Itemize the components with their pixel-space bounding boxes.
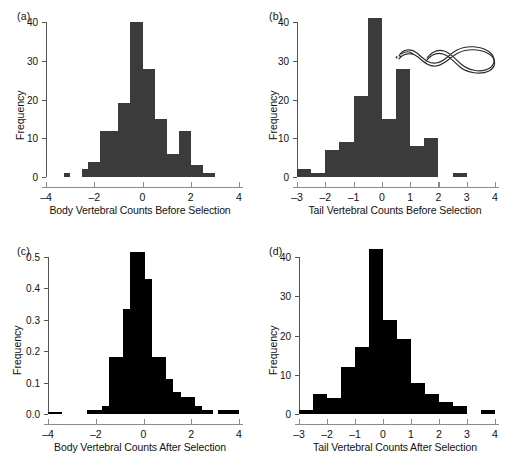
histogram-bar xyxy=(313,394,327,414)
histogram-bar xyxy=(109,357,116,414)
x-tick xyxy=(144,419,145,424)
histogram-bar xyxy=(188,397,195,414)
x-axis-line xyxy=(42,187,243,188)
histogram-bar xyxy=(123,309,130,414)
x-axis-line xyxy=(44,424,243,425)
x-tick xyxy=(239,419,240,424)
histogram-bar xyxy=(339,142,353,177)
x-tick xyxy=(410,182,411,187)
histogram-bar xyxy=(481,410,495,414)
panel-b: (b) Frequency 010203040–3–2–101234 Tail … xyxy=(255,0,509,235)
histogram-bar xyxy=(102,406,109,414)
x-tick-label: –3 xyxy=(293,428,305,440)
y-tick-label: 0 xyxy=(259,172,289,183)
y-tick-label: 30 xyxy=(8,55,38,66)
histogram-bar xyxy=(48,412,62,414)
y-tick xyxy=(44,288,48,289)
histogram-bar xyxy=(64,173,70,177)
histogram-bar xyxy=(145,279,152,414)
histogram-bar xyxy=(299,410,313,414)
y-tick-label: 0.1 xyxy=(10,377,40,388)
histogram-bar xyxy=(218,410,228,414)
panel-d-xlabel: Tail Vertebral Counts After Selection xyxy=(313,441,477,453)
panel-c: (c) Frequency 0.00.10.20.30.40.5–4–2024 … xyxy=(0,235,255,470)
histogram-bar xyxy=(354,96,368,177)
y-tick xyxy=(293,177,297,178)
y-tick-label: 40 xyxy=(261,252,291,263)
y-axis-line xyxy=(48,257,49,414)
y-tick-label: 40 xyxy=(259,17,289,28)
y-axis-line xyxy=(299,257,300,414)
panel-a: (a) Frequency 010203040–4–2024 Body Vert… xyxy=(0,0,255,235)
histogram-bar xyxy=(424,138,438,177)
histogram-bar xyxy=(425,394,439,414)
y-tick xyxy=(42,177,46,178)
x-tick xyxy=(467,182,468,187)
x-tick-label: 0 xyxy=(380,428,386,440)
x-tick-label: 2 xyxy=(188,428,194,440)
x-tick-label: 3 xyxy=(464,191,470,203)
y-tick xyxy=(293,100,297,101)
y-tick xyxy=(293,138,297,139)
x-tick xyxy=(46,182,47,187)
histogram-bar xyxy=(396,69,410,178)
x-tick-label: 3 xyxy=(464,428,470,440)
histogram-bar xyxy=(327,398,341,414)
histogram-bar xyxy=(410,146,424,177)
x-tick xyxy=(143,182,144,187)
y-tick-label: 10 xyxy=(8,133,38,144)
histogram-bar xyxy=(311,173,325,177)
x-tick-label: –1 xyxy=(348,191,360,203)
x-axis-line xyxy=(295,424,499,425)
y-tick-label: 0 xyxy=(8,172,38,183)
x-tick-label: 0 xyxy=(140,191,146,203)
histogram-bar xyxy=(116,357,123,414)
x-tick-label: 2 xyxy=(436,428,442,440)
y-axis-line xyxy=(297,22,298,177)
x-tick xyxy=(191,419,192,424)
x-tick xyxy=(439,419,440,424)
panel-a-plot: 010203040–4–2024 xyxy=(46,22,239,177)
y-tick-label: 30 xyxy=(259,55,289,66)
x-tick-label: –1 xyxy=(349,428,361,440)
x-tick xyxy=(467,419,468,424)
x-tick xyxy=(382,182,383,187)
y-tick-label: 0.3 xyxy=(10,314,40,325)
x-tick-label: 0 xyxy=(379,191,385,203)
y-tick-label: 30 xyxy=(261,291,291,302)
y-tick xyxy=(295,257,299,258)
histogram-bar xyxy=(453,173,467,177)
y-tick-label: 0.2 xyxy=(10,346,40,357)
x-tick-label: 1 xyxy=(407,191,413,203)
y-tick-label: 20 xyxy=(259,94,289,105)
x-tick xyxy=(383,419,384,424)
x-tick xyxy=(438,182,439,187)
x-tick xyxy=(411,419,412,424)
histogram-bar xyxy=(382,119,396,177)
panel-a-xlabel: Body Vertebral Counts Before Selection xyxy=(49,204,230,216)
histogram-bar xyxy=(439,402,453,414)
histogram-bar xyxy=(195,406,202,414)
panel-c-plot: 0.00.10.20.30.40.5–4–2024 xyxy=(48,257,239,414)
histogram-bar xyxy=(227,410,239,414)
x-tick xyxy=(297,182,298,187)
histogram-bar xyxy=(297,169,311,177)
x-tick-label: –2 xyxy=(88,191,100,203)
x-tick xyxy=(327,419,328,424)
x-tick xyxy=(325,182,326,187)
y-tick xyxy=(42,22,46,23)
y-tick-label: 10 xyxy=(261,369,291,380)
x-tick-label: –2 xyxy=(90,428,102,440)
histogram-bar xyxy=(325,150,339,177)
x-tick-label: –4 xyxy=(40,191,52,203)
histogram-bar xyxy=(152,357,159,414)
histogram-bar xyxy=(411,383,425,414)
histogram-bar xyxy=(138,252,145,414)
histogram-bar xyxy=(368,18,382,177)
histogram-bar xyxy=(202,410,213,414)
y-tick xyxy=(293,61,297,62)
x-tick-label: 4 xyxy=(236,191,242,203)
x-tick xyxy=(191,182,192,187)
histogram-bar xyxy=(453,406,467,414)
y-tick xyxy=(295,296,299,297)
